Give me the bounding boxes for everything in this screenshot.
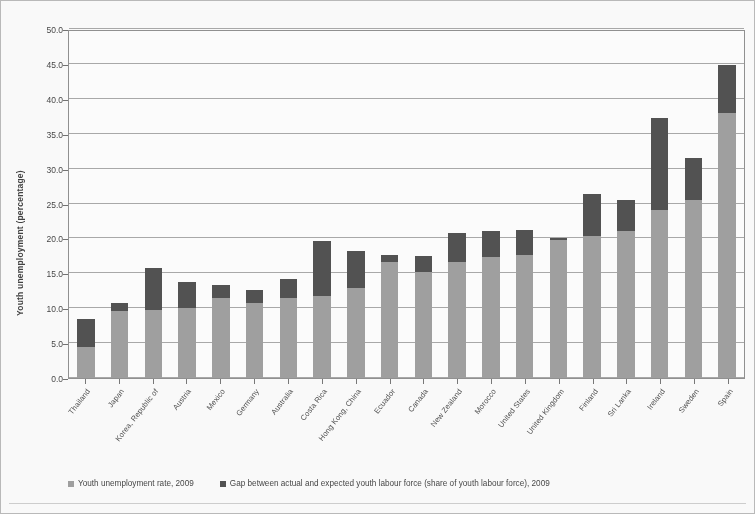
bar-stack: [111, 303, 129, 378]
x-axis-tick-label: Finland: [577, 387, 600, 413]
bar-segment-labour-force-gap: [313, 241, 331, 295]
bar-segment-unemployment-rate: [651, 210, 669, 378]
bottom-divider: [9, 503, 746, 504]
bar-segment-unemployment-rate: [145, 310, 163, 378]
bar-slot: [69, 31, 103, 378]
x-axis-label-slot: Ireland: [643, 385, 677, 465]
bar-segment-unemployment-rate: [550, 240, 568, 378]
x-axis-label-slot: Mexico: [203, 385, 237, 465]
x-axis-tick-mark: [356, 379, 357, 384]
x-axis-tick-mark: [525, 379, 526, 384]
bar-stack: [145, 268, 163, 378]
bar-stack: [448, 233, 466, 378]
bar-segment-labour-force-gap: [516, 230, 534, 255]
x-axis-tick-label: Ireland: [646, 387, 668, 411]
bar-segment-unemployment-rate: [718, 113, 736, 378]
bar-segment-unemployment-rate: [347, 288, 365, 378]
bar-slot: [609, 31, 643, 378]
bar-slot: [643, 31, 677, 378]
bar-slot: [103, 31, 137, 378]
bar-stack: [482, 231, 500, 378]
y-axis-tick-label: 0.0: [31, 374, 63, 384]
bar-segment-labour-force-gap: [415, 256, 433, 272]
x-axis-tick-mark: [491, 379, 492, 384]
x-axis-tick-mark: [728, 379, 729, 384]
bar-slot: [710, 31, 744, 378]
bar-segment-labour-force-gap: [145, 268, 163, 309]
bar-slot: [575, 31, 609, 378]
bar-segment-labour-force-gap: [583, 194, 601, 236]
x-axis-tick-mark: [220, 379, 221, 384]
y-axis-tick-mark: [63, 309, 68, 310]
y-axis-tick-mark: [63, 65, 68, 66]
x-axis-label-slot: New Zealand: [440, 385, 474, 465]
y-axis-tick-label: 20.0: [31, 234, 63, 244]
bar-slot: [170, 31, 204, 378]
bar-slot: [272, 31, 306, 378]
x-axis-tick-mark: [694, 379, 695, 384]
x-axis-tick-label: Mexico: [205, 387, 227, 412]
bar-stack: [550, 238, 568, 378]
y-axis-tick-label: 40.0: [31, 95, 63, 105]
bar-stack: [77, 319, 95, 378]
x-axis-label-slot: Spain: [711, 385, 745, 465]
x-axis-tick-label: Canada: [407, 387, 431, 414]
bar-segment-labour-force-gap: [280, 279, 298, 299]
bar-slot: [440, 31, 474, 378]
x-axis-label-slot: Sri Lanka: [610, 385, 644, 465]
legend-swatch-icon-series2: [220, 481, 226, 487]
bar-stack: [246, 290, 264, 378]
x-axis-tick-mark: [186, 379, 187, 384]
bar-series-container: [69, 31, 744, 378]
bar-segment-unemployment-rate: [381, 262, 399, 378]
y-axis-tick-label: 15.0: [31, 269, 63, 279]
bar-slot: [238, 31, 272, 378]
x-axis-label-slot: Germany: [237, 385, 271, 465]
x-axis-tick-mark: [593, 379, 594, 384]
x-axis-label-slot: Australia: [271, 385, 305, 465]
bar-segment-labour-force-gap: [651, 118, 669, 211]
bar-slot: [542, 31, 576, 378]
bar-stack: [685, 158, 703, 378]
y-axis-tick-label: 5.0: [31, 339, 63, 349]
x-axis-label-slot: Finland: [576, 385, 610, 465]
x-axis-tick-label: Ecuador: [372, 387, 397, 415]
bar-slot: [137, 31, 171, 378]
bar-segment-labour-force-gap: [77, 319, 95, 347]
bar-stack: [617, 200, 635, 378]
bar-segment-unemployment-rate: [583, 236, 601, 378]
y-axis-tick-label: 35.0: [31, 130, 63, 140]
bar-stack: [718, 65, 736, 378]
bar-segment-labour-force-gap: [381, 255, 399, 262]
x-axis-tick-mark: [254, 379, 255, 384]
x-axis-tick-mark: [626, 379, 627, 384]
x-axis-tick-label: Morocco: [473, 387, 498, 416]
y-axis-title: Youth unemployment (percentage): [15, 0, 25, 96]
bar-segment-unemployment-rate: [111, 311, 129, 378]
x-axis-label-slot: Sweden: [677, 385, 711, 465]
bar-stack: [178, 282, 196, 378]
x-axis-tick-mark: [153, 379, 154, 384]
y-axis-tick-mark: [63, 135, 68, 136]
x-axis-tick-label: Austria: [171, 387, 193, 412]
legend-label-series1: Youth unemployment rate, 2009: [78, 479, 194, 488]
bar-stack: [651, 118, 669, 378]
bar-segment-unemployment-rate: [212, 298, 230, 378]
x-axis-tick-label: Australia: [269, 387, 295, 417]
bar-segment-unemployment-rate: [617, 231, 635, 378]
x-axis-label-slot: Hong Kong, China: [339, 385, 373, 465]
y-axis-tick-label: 30.0: [31, 165, 63, 175]
x-axis-tick-mark: [423, 379, 424, 384]
bar-segment-labour-force-gap: [718, 65, 736, 112]
bar-stack: [313, 241, 331, 378]
bar-stack: [516, 230, 534, 378]
bar-segment-labour-force-gap: [617, 200, 635, 231]
bar-segment-labour-force-gap: [178, 282, 196, 309]
y-axis-tick-mark: [63, 30, 68, 31]
y-axis-tick-label: 10.0: [31, 304, 63, 314]
y-axis-tick-mark: [63, 100, 68, 101]
bar-stack: [415, 256, 433, 378]
y-axis-tick-label: 45.0: [31, 60, 63, 70]
bar-slot: [339, 31, 373, 378]
y-axis-tick-mark: [63, 205, 68, 206]
